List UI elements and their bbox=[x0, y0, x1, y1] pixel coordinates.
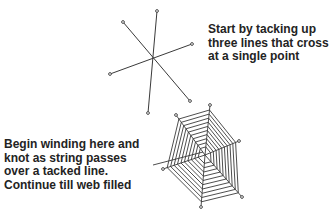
tack-icon bbox=[156, 10, 159, 13]
string-line bbox=[110, 44, 192, 74]
caption-line: at a single point bbox=[208, 50, 329, 64]
caption-line: Begin winding here and bbox=[4, 138, 139, 152]
tack-icon bbox=[209, 104, 212, 107]
tack-icon bbox=[241, 196, 244, 199]
string-line bbox=[123, 22, 190, 101]
tack-icon bbox=[189, 100, 192, 103]
caption-line: over a tacked line. bbox=[4, 165, 139, 179]
tack-icon bbox=[191, 43, 194, 46]
tack-icon bbox=[200, 206, 203, 209]
three-crossed-lines bbox=[109, 10, 194, 115]
tack-icon bbox=[175, 114, 178, 117]
caption-line: Continue till web filled bbox=[4, 179, 139, 193]
tack-icon bbox=[162, 168, 165, 171]
string-line bbox=[148, 11, 157, 113]
step2-caption: Begin winding here and knot as string pa… bbox=[4, 138, 139, 192]
caption-line: Start by tacking up bbox=[208, 23, 329, 37]
step1-caption: Start by tacking up three lines that cro… bbox=[208, 23, 329, 64]
tack-icon bbox=[109, 73, 112, 76]
tack-icon bbox=[147, 112, 150, 115]
caption-line: knot as string passes bbox=[4, 152, 139, 166]
tack-icon bbox=[122, 21, 125, 24]
web-diagram: Start by tacking up three lines that cro… bbox=[0, 0, 332, 212]
tack-icon bbox=[238, 140, 241, 143]
spider-web bbox=[153, 104, 243, 209]
caption-line: three lines that cross bbox=[208, 37, 329, 51]
